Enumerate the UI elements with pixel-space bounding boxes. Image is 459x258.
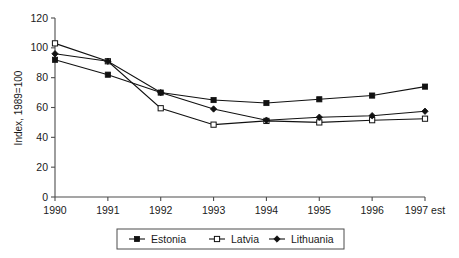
y-axis-title: Index, 1989=100 xyxy=(13,70,24,145)
x-axis-tick-label: 1993 xyxy=(202,204,226,216)
chart-background xyxy=(0,0,459,258)
y-axis-tick-label: 40 xyxy=(36,131,48,143)
y-axis-tick-label: 0 xyxy=(42,191,48,203)
data-point-marker xyxy=(211,97,216,102)
data-point-marker xyxy=(264,100,269,105)
data-point-marker xyxy=(370,93,375,98)
y-axis-tick-label: 80 xyxy=(36,71,48,83)
y-axis-tick-label: 20 xyxy=(36,161,48,173)
data-point-marker xyxy=(211,122,216,127)
legend-marker-latvia xyxy=(214,236,219,241)
legend-label: Latvia xyxy=(231,233,259,245)
chart-canvas: Index, 1989=100 020406080100120 19901991… xyxy=(0,0,459,258)
legend-label: Estonia xyxy=(151,233,186,245)
x-axis-tick-label: 1991 xyxy=(96,204,120,216)
data-point-marker xyxy=(52,41,57,46)
legend-label: Lithuania xyxy=(291,233,334,245)
x-axis-tick-label: 1994 xyxy=(255,204,279,216)
line-chart: Index, 1989=100 020406080100120 19901991… xyxy=(0,0,459,258)
x-axis-tick-label: 1992 xyxy=(149,204,173,216)
x-axis-tick-label: 1997 est xyxy=(405,204,445,216)
y-axis-tick-label: 120 xyxy=(30,12,48,24)
data-point-marker xyxy=(422,116,427,121)
data-point-marker xyxy=(422,84,427,89)
y-axis-tick-label: 100 xyxy=(30,41,48,53)
x-axis-tick-label: 1995 xyxy=(308,204,332,216)
data-point-marker xyxy=(317,97,322,102)
data-point-marker xyxy=(52,57,57,62)
data-point-marker xyxy=(105,72,110,77)
legend-marker-estonia xyxy=(134,236,139,241)
x-axis-tick-label: 1996 xyxy=(360,204,384,216)
y-axis-title-text: Index, 1989=100 xyxy=(13,70,24,145)
data-point-marker xyxy=(158,106,163,111)
y-axis-tick-label: 60 xyxy=(36,101,48,113)
x-axis-tick-label: 1990 xyxy=(43,204,67,216)
